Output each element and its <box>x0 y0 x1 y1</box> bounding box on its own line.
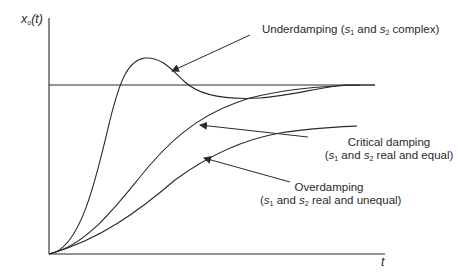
underdamping-title: Underdamping <box>262 23 337 35</box>
underdamping-label: Underdamping (s1 and s2 complex) <box>262 23 439 39</box>
overdamping-subtitle: (s1 and s2 real and unequal) <box>260 194 398 210</box>
paren-close: real and unequal) <box>309 194 402 206</box>
overdamping-title: Overdamping <box>260 181 398 194</box>
and-text: and <box>354 23 380 35</box>
critical-subtitle: (s1 and s2 real and equal) <box>320 149 458 165</box>
and-text: and <box>274 194 300 206</box>
y-label-arg: (t) <box>31 12 43 26</box>
x-axis-label: t <box>381 256 384 269</box>
y-axis-label: xo(t) <box>21 13 43 29</box>
overdamping-label: Overdamping (s1 and s2 real and unequal) <box>260 181 398 210</box>
and-text: and <box>338 149 364 161</box>
critical-title: Critical damping <box>320 136 458 149</box>
overdamping-arrow <box>204 158 290 182</box>
paren-close: complex) <box>389 23 439 35</box>
underdamping-arrow <box>172 35 250 71</box>
paren-close: real and equal) <box>373 149 453 161</box>
critical-damping-label: Critical damping (s1 and s2 real and equ… <box>320 136 458 165</box>
critically-damped-curve <box>49 85 360 254</box>
